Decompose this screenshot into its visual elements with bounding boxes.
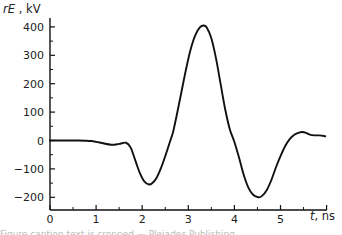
x-tick-label: 5 xyxy=(277,213,284,226)
y-tick-label: 400 xyxy=(23,21,44,34)
x-tick-label: 1 xyxy=(93,213,100,226)
x-tick-label: 3 xyxy=(185,213,192,226)
y-axis-title: rE , kV xyxy=(3,2,41,16)
x-axis-title: t, ns xyxy=(310,209,335,223)
figure-caption-cropped: Figure caption text is cropped — Pleiade… xyxy=(0,228,342,235)
x-axis-ticks: 012345 xyxy=(47,205,327,226)
x-tick-label: 0 xyxy=(47,213,54,226)
x-tick-label: 4 xyxy=(231,213,238,226)
y-tick-label: −100 xyxy=(14,163,44,176)
y-axis-ticks: 4003002001000−100−200 xyxy=(14,21,55,204)
data-series-line xyxy=(50,25,325,197)
y-tick-label: 100 xyxy=(23,106,44,119)
y-tick-label: −200 xyxy=(14,191,44,204)
x-tick-label: 2 xyxy=(139,213,146,226)
y-tick-label: 300 xyxy=(23,49,44,62)
line-chart: 4003002001000−100−200 012345 rE , kV t, … xyxy=(0,0,342,228)
y-tick-label: 200 xyxy=(23,78,44,91)
y-tick-label: 0 xyxy=(37,135,44,148)
